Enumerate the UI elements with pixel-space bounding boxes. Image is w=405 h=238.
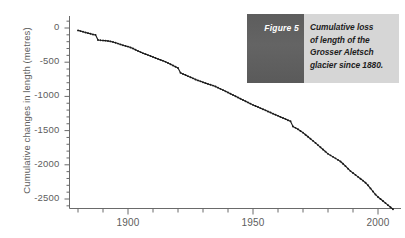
- data-point: [272, 113, 274, 115]
- data-point: [335, 157, 337, 159]
- data-point: [175, 66, 177, 68]
- caption-line-4: glacier since 1880.: [310, 59, 395, 72]
- data-point: [250, 103, 252, 105]
- data-point: [90, 33, 92, 35]
- data-point: [222, 89, 224, 91]
- data-point: [380, 198, 382, 200]
- data-point: [330, 154, 332, 156]
- data-point: [305, 134, 307, 136]
- data-point: [372, 191, 374, 193]
- data-point: [215, 86, 217, 88]
- figure-caption-text: Cumulative loss of length of the Grosser…: [304, 14, 399, 83]
- data-point: [212, 85, 214, 87]
- y-tick-label: -1500: [16, 124, 60, 135]
- data-point: [182, 73, 184, 75]
- data-point: [297, 128, 299, 130]
- data-point: [255, 105, 257, 107]
- data-point: [127, 46, 129, 48]
- data-point: [107, 40, 109, 42]
- data-point: [210, 84, 212, 86]
- figure-number-label: Figure 5: [247, 14, 304, 83]
- y-tick-label: -500: [16, 55, 60, 66]
- data-point: [167, 62, 169, 64]
- data-point: [95, 34, 97, 36]
- data-point: [315, 142, 317, 144]
- data-point: [185, 74, 187, 76]
- data-point: [142, 52, 144, 54]
- data-point: [240, 98, 242, 100]
- data-point: [97, 39, 99, 41]
- data-point: [92, 34, 94, 36]
- data-point: [295, 127, 297, 129]
- data-point: [180, 72, 182, 74]
- data-point: [377, 196, 379, 198]
- data-point: [290, 120, 292, 122]
- data-point: [120, 43, 122, 45]
- data-point: [115, 42, 117, 44]
- data-point: [337, 159, 339, 161]
- data-point: [262, 108, 264, 110]
- data-point: [352, 172, 354, 174]
- data-point: [235, 95, 237, 97]
- data-point: [362, 180, 364, 182]
- data-point: [190, 76, 192, 78]
- data-point: [265, 109, 267, 111]
- data-point: [317, 144, 319, 146]
- data-point: [77, 29, 79, 31]
- data-point: [230, 93, 232, 95]
- data-point: [245, 100, 247, 102]
- data-point: [87, 32, 89, 34]
- data-point: [365, 182, 367, 184]
- data-point: [322, 149, 324, 151]
- data-point: [102, 40, 104, 42]
- data-point: [217, 87, 219, 89]
- data-point: [300, 130, 302, 132]
- y-tick-label: 0: [16, 21, 60, 32]
- data-point: [122, 44, 124, 46]
- data-point: [340, 161, 342, 163]
- data-point: [247, 101, 249, 103]
- data-point: [307, 136, 309, 138]
- data-point: [357, 176, 359, 178]
- y-tick-label: -2500: [16, 192, 60, 203]
- data-point: [390, 206, 392, 208]
- data-point: [100, 39, 102, 41]
- data-point: [342, 163, 344, 165]
- data-point: [280, 116, 282, 118]
- data-point: [237, 97, 239, 99]
- x-tick-label: 1900: [105, 217, 151, 228]
- data-point: [382, 200, 384, 202]
- data-point: [150, 55, 152, 57]
- data-point: [137, 50, 139, 52]
- data-point: [277, 115, 279, 117]
- data-point: [157, 58, 159, 60]
- data-point: [242, 99, 244, 101]
- data-point: [302, 132, 304, 134]
- data-point: [145, 53, 147, 55]
- data-point: [270, 112, 272, 114]
- data-point: [267, 111, 269, 113]
- data-point: [285, 118, 287, 120]
- data-point: [140, 51, 142, 53]
- data-point: [367, 184, 369, 186]
- data-point: [162, 60, 164, 62]
- figure-caption-box: Figure 5 Cumulative loss of length of th…: [247, 14, 399, 83]
- x-tick-label: 1950: [230, 217, 276, 228]
- data-point: [105, 40, 107, 42]
- data-point: [187, 75, 189, 77]
- data-point: [200, 80, 202, 82]
- data-point: [220, 88, 222, 90]
- data-point: [177, 67, 179, 69]
- data-point: [347, 168, 349, 170]
- data-point: [370, 187, 372, 189]
- caption-line-1: Cumulative loss: [310, 21, 395, 34]
- data-point: [125, 45, 127, 47]
- data-point: [360, 178, 362, 180]
- data-point: [147, 54, 149, 56]
- data-point: [170, 63, 172, 65]
- figure-glacier-length-loss: Cumulative changes in length (metres) Fi…: [0, 0, 405, 238]
- data-point: [172, 65, 174, 67]
- data-point: [310, 138, 312, 140]
- data-point: [165, 61, 167, 63]
- data-point: [252, 104, 254, 106]
